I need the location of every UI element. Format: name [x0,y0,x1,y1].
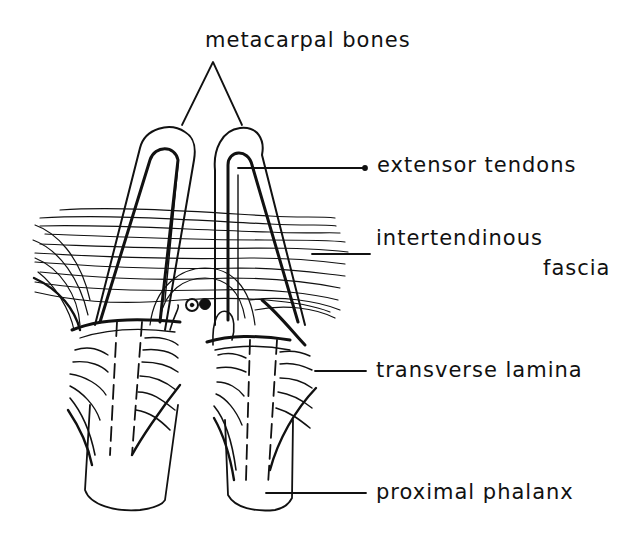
leader-lines [182,62,370,493]
label-extensor-tendons: extensor tendons [377,155,576,176]
label-proximal-phalanx: proximal phalanx [376,482,574,503]
label-transverse-lamina: transverse lamina [376,360,583,381]
metacarpal-bone-right [215,128,305,325]
label-intertendinous-fascia-line1: intertendinous [376,228,543,249]
label-metacarpal-bones: metacarpal bones [205,30,411,51]
proximal-phalanx-right [207,300,316,510]
label-intertendinous-fascia-line2: fascia [543,258,610,279]
extensor-tendon-left [100,149,178,322]
anatomy-diagram: metacarpal bones extensor tendons intert… [0,0,644,536]
proximal-phalanx-left [68,320,180,511]
